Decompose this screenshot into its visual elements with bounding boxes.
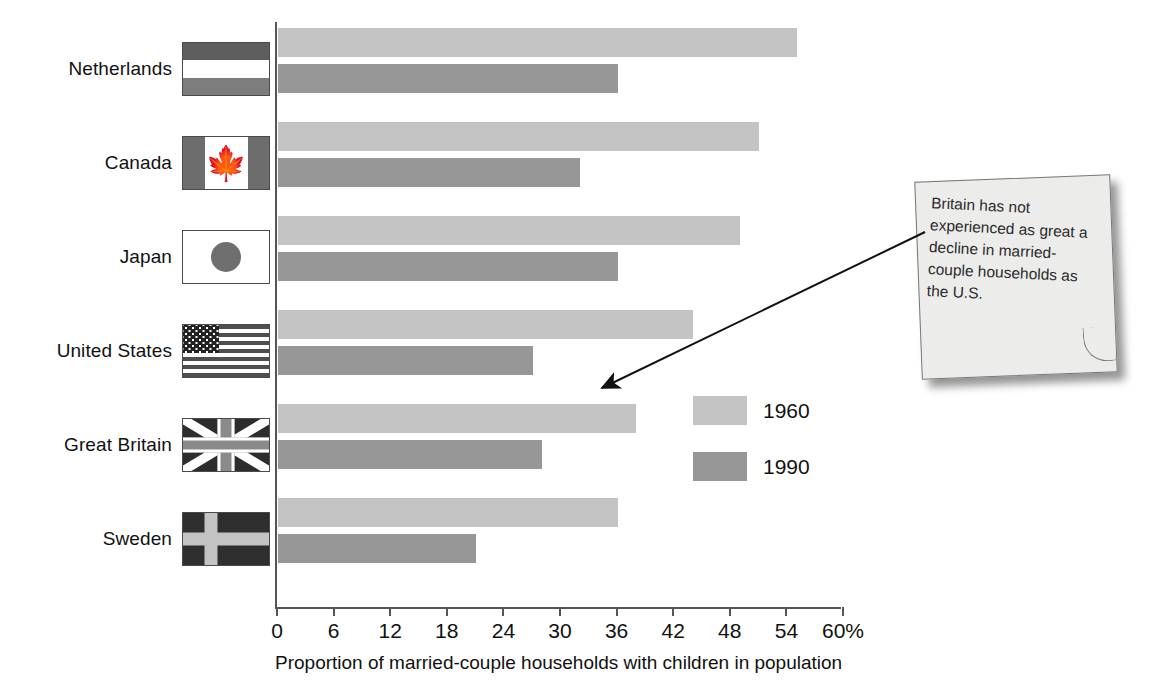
x-tick <box>446 607 448 616</box>
x-tick-label: 0 <box>271 619 283 643</box>
bar-united-states-1990 <box>278 346 533 375</box>
x-tick <box>559 607 561 616</box>
sticky-note: Britain has not experienced as great a d… <box>914 174 1117 379</box>
legend-swatch-1960 <box>693 396 747 425</box>
bar-united-states-1960 <box>278 310 693 339</box>
x-tick <box>785 607 787 616</box>
legend: 1960 1990 <box>693 396 810 508</box>
bar-canada-1960 <box>278 122 759 151</box>
x-tick <box>616 607 618 616</box>
x-tick <box>729 607 731 616</box>
bar-great-britain-1990 <box>278 440 542 469</box>
x-tick-label: 18 <box>435 619 458 643</box>
bar-sweden-1990 <box>278 534 476 563</box>
bar-sweden-1960 <box>278 498 618 527</box>
legend-item-1990[interactable]: 1990 <box>693 452 810 481</box>
legend-label: 1960 <box>763 399 810 423</box>
bar-canada-1990 <box>278 158 580 187</box>
x-tick <box>502 607 504 616</box>
x-tick <box>276 607 278 616</box>
x-tick-label: 60% <box>822 619 864 643</box>
bar-chart: Netherlands Canada 🍁 Japan United States… <box>0 0 1150 687</box>
annotation-note: Britain has not experienced as great a d… <box>918 178 1133 393</box>
bar-netherlands-1960 <box>278 28 797 57</box>
bar-japan-1960 <box>278 216 740 245</box>
x-tick-label: 36 <box>605 619 628 643</box>
x-tick-label: 30 <box>548 619 571 643</box>
annotation-text: Britain has not experienced as great a d… <box>926 192 1095 310</box>
legend-item-1960[interactable]: 1960 <box>693 396 810 425</box>
bar-japan-1990 <box>278 252 618 281</box>
y-axis-line <box>275 22 277 607</box>
note-fold-corner <box>1082 326 1116 363</box>
x-tick <box>672 607 674 616</box>
x-tick-label: 12 <box>379 619 402 643</box>
x-tick <box>333 607 335 616</box>
x-tick-label: 6 <box>328 619 340 643</box>
bar-netherlands-1990 <box>278 64 618 93</box>
legend-label: 1990 <box>763 455 810 479</box>
x-tick <box>389 607 391 616</box>
bar-great-britain-1960 <box>278 404 636 433</box>
x-axis-title: Proportion of married-couple households … <box>275 652 841 674</box>
x-tick-label: 54 <box>775 619 798 643</box>
x-axis-line <box>275 607 841 609</box>
x-tick-label: 24 <box>492 619 515 643</box>
x-tick <box>842 607 844 616</box>
x-tick-label: 48 <box>718 619 741 643</box>
legend-swatch-1990 <box>693 452 747 481</box>
x-tick-label: 42 <box>662 619 685 643</box>
